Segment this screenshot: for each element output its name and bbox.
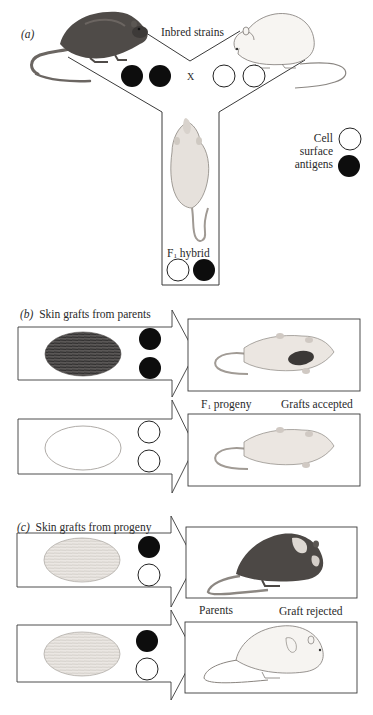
f1-hybrid-mouse: [171, 118, 209, 241]
legend-line-antigens: antigens: [295, 159, 333, 171]
dark-skin-graft: [45, 332, 121, 376]
graft-rejected-label: Graft rejected: [279, 606, 343, 618]
b2-antigen-1: [138, 421, 160, 443]
left-parent-antigen-2: [149, 65, 171, 87]
f1-progeny-suffix: progeny: [211, 398, 252, 410]
panel-b-label: (b): [20, 308, 33, 320]
cross-symbol: X: [187, 72, 194, 82]
c1-antigen-black: [138, 536, 160, 558]
hybrid-antigen-black: [193, 259, 215, 281]
hybrid-antigen-white: [167, 259, 189, 281]
panel-c-label: (c): [17, 521, 30, 533]
legend-line-cell: Cell: [314, 133, 333, 145]
f1-progeny-label: F1 progeny: [201, 399, 251, 411]
legend-white-antigen-icon: [339, 128, 361, 150]
panel-a-label: (a): [21, 29, 34, 41]
panel-c-title: Skin grafts from progeny: [36, 521, 152, 533]
grafts-accepted-label: Grafts accepted: [281, 399, 353, 411]
hybrid-suffix: hybrid: [177, 247, 210, 259]
right-parent-antigen-2: [243, 65, 265, 87]
f1-hybrid-label: F1 hybrid: [167, 248, 210, 260]
legend-line-surface: surface: [300, 146, 333, 158]
parents-label: Parents: [199, 605, 233, 617]
inbred-strains-title: Inbred strains: [161, 27, 224, 39]
b1-antigen-2: [139, 357, 161, 379]
panel-b-heading: (b) Skin grafts from parents: [20, 309, 151, 321]
b1-antigen-1: [139, 328, 161, 350]
left-parent-antigen-1: [121, 65, 143, 87]
panel-c-heading: (c) Skin grafts from progeny: [17, 522, 151, 534]
right-parent-antigen-1: [213, 65, 235, 87]
c1-antigen-white: [138, 564, 160, 586]
light-skin-graft: [45, 426, 121, 470]
c2-antigen-white: [136, 658, 158, 680]
c2-antigen-black: [136, 630, 158, 652]
hybrid-skin-graft-2: [44, 632, 120, 676]
b2-antigen-2: [138, 450, 160, 472]
panel-b-title: Skin grafts from parents: [39, 308, 150, 320]
hybrid-skin-graft-1: [44, 538, 120, 582]
legend-black-antigen-icon: [338, 155, 360, 177]
